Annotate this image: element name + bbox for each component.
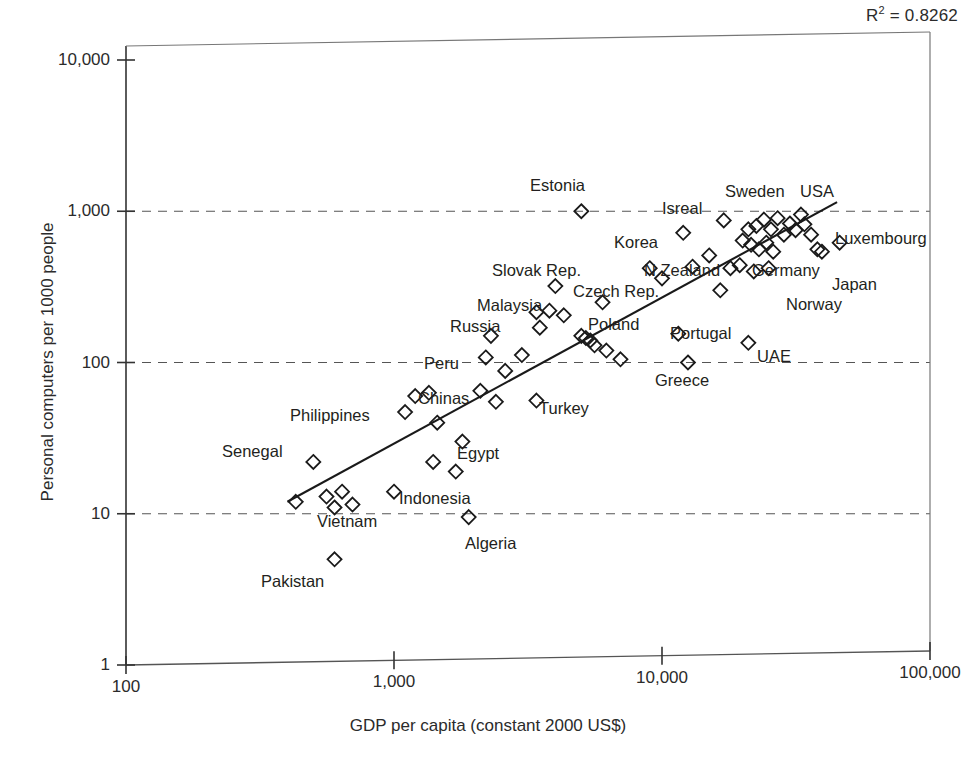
y-tick-label: 10 [91, 504, 110, 524]
gridlines [126, 211, 930, 514]
data-point-marker [717, 213, 731, 227]
data-point-marker [676, 226, 690, 240]
data-point-marker [335, 485, 349, 499]
point-label: Czech Rep. [573, 283, 659, 300]
y-tick-label: 1 [101, 655, 110, 675]
data-point-marker [426, 455, 440, 469]
point-label: Slovak Rep. [492, 262, 581, 279]
point-label: Egypt [457, 445, 499, 462]
x-tick-label: 1,000 [373, 672, 416, 692]
point-label: Estonia [530, 177, 585, 194]
scatter-plot-canvas [0, 0, 976, 764]
point-label: Turkey [539, 400, 589, 417]
point-label: Indonesia [399, 490, 471, 507]
point-label: Greece [655, 372, 709, 389]
x-axis-title: GDP per capita (constant 2000 US$) [0, 716, 976, 736]
y-tick-label: 1,000 [67, 201, 110, 221]
point-label: USA [800, 183, 834, 200]
data-point-marker [557, 308, 571, 322]
y-axis-title: Personal computers per 1000 people [38, 152, 58, 572]
point-label: Japan [832, 276, 877, 293]
y-tick-label: 10,000 [58, 50, 110, 70]
point-label: Germany [752, 262, 820, 279]
point-label: Pakistan [261, 573, 324, 590]
point-label: Poland [588, 316, 639, 333]
point-label: Portugal [670, 325, 731, 342]
point-label: Philippines [290, 407, 370, 424]
data-point-marker [533, 321, 547, 335]
x-tick-label: 100 [112, 677, 140, 697]
data-point-marker [306, 455, 320, 469]
point-label: Peru [424, 355, 459, 372]
data-point-marker [613, 352, 627, 366]
point-label: Chinas [418, 390, 469, 407]
point-label: UAE [757, 348, 791, 365]
axis-lines [126, 32, 930, 665]
data-point-marker [548, 279, 562, 293]
data-point-marker [498, 364, 512, 378]
x-tick-label: 100,000 [899, 663, 960, 683]
data-point-marker [741, 336, 755, 350]
data-point-marker [320, 490, 334, 504]
x-tick-label: 10,000 [636, 668, 688, 688]
point-label: Isreal [662, 200, 702, 217]
point-label: Korea [614, 234, 658, 251]
point-label: Senegal [222, 443, 283, 460]
data-point-marker [328, 552, 342, 566]
point-label: Algeria [465, 535, 516, 552]
data-point-marker [345, 498, 359, 512]
data-point-marker [713, 283, 727, 297]
data-point-marker [542, 304, 556, 318]
data-point-marker [515, 348, 529, 362]
data-point-marker [489, 395, 503, 409]
point-label: Vietnam [317, 513, 377, 530]
point-label: Malaysia [477, 297, 542, 314]
point-label: Russia [450, 318, 500, 335]
point-label: Sweden [725, 183, 785, 200]
point-label: Norway [786, 296, 842, 313]
data-point-marker [398, 405, 412, 419]
point-label: N Zealand [644, 262, 720, 279]
point-label: Luxembourg [835, 230, 927, 247]
data-point-marker [449, 465, 463, 479]
data-point-marker [462, 510, 476, 524]
y-tick-label: 100 [82, 353, 110, 373]
axis-ticks [117, 60, 930, 674]
chart-figure: R2 = 0.8262 1101001,00010,000 1001,00010… [0, 0, 976, 764]
